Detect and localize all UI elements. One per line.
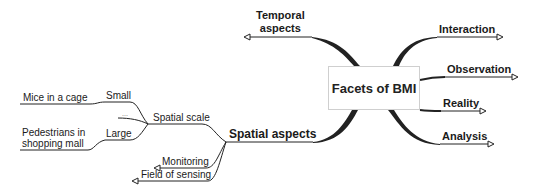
pedestrians-line1: Pedestrians in <box>22 128 85 138</box>
node-interaction[interactable]: Interaction <box>439 24 495 35</box>
pedestrians-line2: shopping mall <box>22 139 85 149</box>
node-spatial-aspects[interactable]: Spatial aspects <box>229 128 316 140</box>
node-reality[interactable]: Reality <box>443 98 479 109</box>
node-temporal-aspects[interactable]: Temporal aspects <box>256 10 305 34</box>
branch-spatial <box>313 110 358 143</box>
node-field-of-sensing[interactable]: Field of sensing <box>141 170 211 180</box>
temporal-label-line2: aspects <box>256 23 305 34</box>
node-observation[interactable]: Observation <box>447 64 511 75</box>
node-ellipsis[interactable]: ... <box>122 110 128 117</box>
node-pedestrians-in-shopping-mall[interactable]: Pedestrians in shopping mall <box>22 128 85 149</box>
branch-interaction <box>393 37 437 66</box>
temporal-label-line1: Temporal <box>256 10 305 21</box>
branch-temporal <box>312 37 360 66</box>
central-topic-label: Facets of BMI <box>332 81 417 96</box>
node-small[interactable]: Small <box>106 91 131 101</box>
node-mice-in-a-cage[interactable]: Mice in a cage <box>23 93 87 103</box>
branch-analysis <box>388 110 440 145</box>
node-monitoring[interactable]: Monitoring <box>162 157 209 167</box>
node-analysis[interactable]: Analysis <box>442 131 487 142</box>
node-large[interactable]: Large <box>106 129 132 139</box>
node-spatial-scale[interactable]: Spatial scale <box>153 113 210 123</box>
central-topic-box[interactable]: Facets of BMI <box>328 66 420 110</box>
